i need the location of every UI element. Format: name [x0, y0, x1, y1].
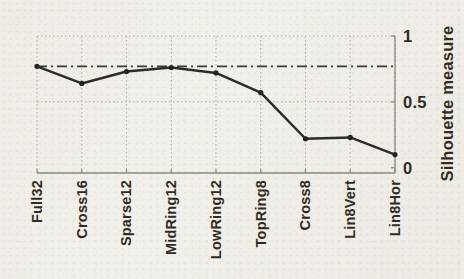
- x-tick-label-TopRing8: TopRing8: [253, 180, 269, 247]
- x-tick-label-Lin8Hor: Lin8Hor: [387, 180, 403, 236]
- data-point-Cross16: [79, 81, 84, 86]
- data-point-Lin8Hor: [392, 152, 397, 157]
- y-tick-label: 1: [403, 27, 412, 45]
- data-point-Sparse12: [124, 69, 129, 74]
- scanned-figure: 00.51Full32Cross16Sparse12MidRing12LowRi…: [0, 0, 464, 279]
- x-tick-label-MidRing12: MidRing12: [163, 180, 179, 255]
- x-tick-label-Sparse12: Sparse12: [118, 180, 134, 246]
- y-axis-title: Silhouette measure: [438, 26, 456, 182]
- data-point-TopRing8: [258, 90, 263, 95]
- y-tick-label: 0: [403, 159, 412, 177]
- data-point-Cross8: [303, 136, 308, 141]
- data-point-MidRing12: [169, 65, 174, 70]
- y-tick-label: 0.5: [403, 93, 427, 111]
- data-point-LowRing12: [213, 70, 218, 75]
- x-tick-label-LowRing12: LowRing12: [208, 180, 224, 259]
- data-point-Lin8Vert: [348, 135, 353, 140]
- x-tick-label-Cross16: Cross16: [74, 180, 90, 239]
- silhouette-line-chart: 00.51Full32Cross16Sparse12MidRing12LowRi…: [0, 0, 464, 279]
- x-tick-label-Lin8Vert: Lin8Vert: [342, 180, 358, 239]
- x-tick-label-Full32: Full32: [29, 180, 45, 223]
- data-point-Full32: [34, 64, 39, 69]
- x-tick-label-Cross8: Cross8: [297, 180, 313, 230]
